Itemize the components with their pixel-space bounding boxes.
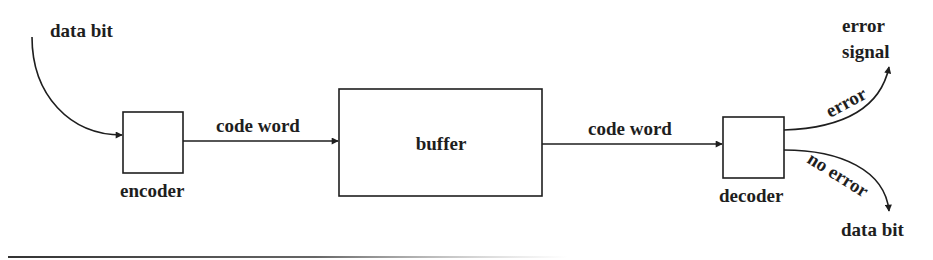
bottom-rule <box>8 256 568 258</box>
error-branch-label: error <box>822 83 870 122</box>
error-detection-diagram: data bit encoder code word buffer code w… <box>0 0 933 260</box>
code-word-label-2: code word <box>588 118 672 139</box>
output-data-bit-label: data bit <box>841 219 904 240</box>
encoder-block <box>123 112 183 173</box>
code-word-label-1: code word <box>216 115 300 136</box>
encoder-label: encoder <box>120 180 185 201</box>
decoder-block <box>723 117 784 178</box>
no-error-branch-label: no error <box>804 148 873 202</box>
input-arrow <box>32 37 122 135</box>
error-signal-label-line2: signal <box>842 41 890 62</box>
decoder-label: decoder <box>719 185 784 206</box>
error-signal-label-line1: error <box>842 15 885 36</box>
buffer-label: buffer <box>416 133 467 154</box>
input-data-bit-label: data bit <box>50 20 113 41</box>
